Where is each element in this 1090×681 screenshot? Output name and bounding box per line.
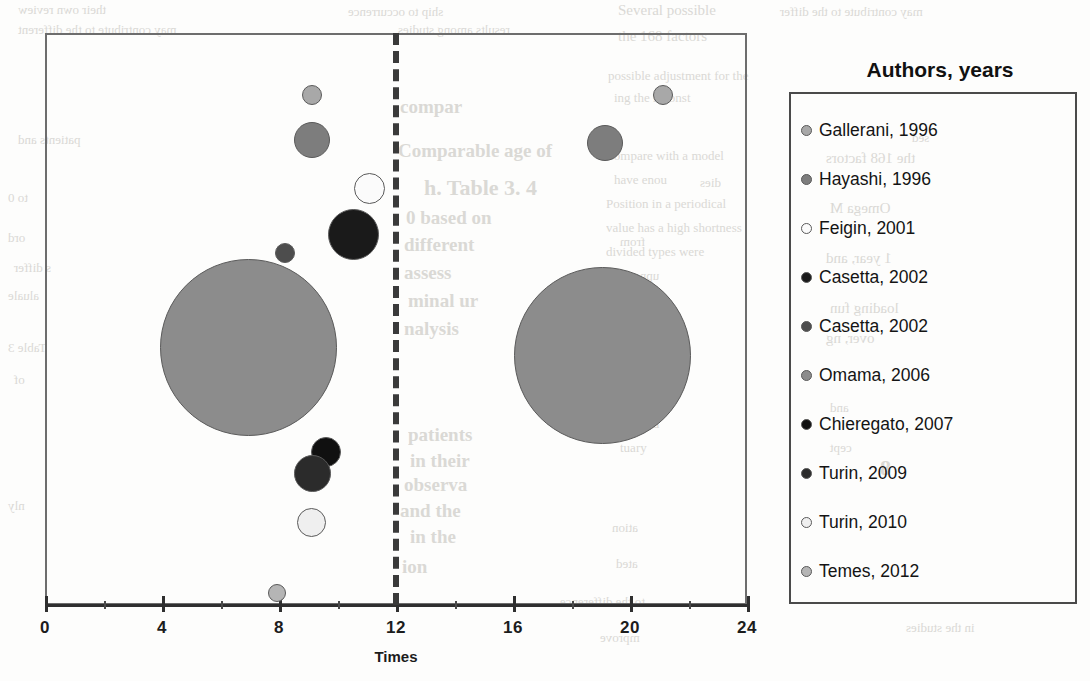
ghost-text: may contribute to the differ: [780, 4, 923, 20]
legend-swatch-icon: [801, 321, 812, 332]
x-axis-title: Times: [374, 648, 417, 665]
legend-item[interactable]: Turin, 2009: [801, 449, 1075, 498]
bubble-point: [514, 267, 691, 444]
threshold-reference-line: [393, 33, 399, 605]
bubble-point: [587, 125, 623, 161]
bubble-point: [354, 173, 385, 204]
bubble-point: [160, 259, 337, 436]
legend-swatch-icon: [801, 125, 812, 136]
legend-item-label: Casetta, 2002: [819, 267, 928, 288]
legend-swatch-icon: [801, 419, 812, 430]
legend-swatch-icon: [801, 370, 812, 381]
legend-item[interactable]: Turin, 2010: [801, 498, 1075, 547]
bubble-chart: 04812162024 Times: [0, 0, 780, 681]
legend-swatch-icon: [801, 272, 812, 283]
legend-item-label: Gallerani, 1996: [819, 120, 938, 141]
legend-item-label: Turin, 2010: [819, 512, 907, 533]
legend-item-label: Chieregato, 2007: [819, 414, 953, 435]
legend-item[interactable]: Gallerani, 1996: [801, 106, 1075, 155]
x-axis-tick-label: 0: [40, 618, 50, 638]
legend-item-label: Turin, 2009: [819, 463, 907, 484]
bubble-point: [275, 243, 295, 263]
legend-item[interactable]: Casetta, 2002: [801, 302, 1075, 351]
legend-item[interactable]: Omama, 2006: [801, 351, 1075, 400]
legend-swatch-icon: [801, 517, 812, 528]
x-axis-tick-label: 8: [274, 618, 284, 638]
legend-title: Authors, years: [866, 58, 1013, 82]
legend-item-label: Omama, 2006: [819, 365, 930, 386]
legend-item[interactable]: Feigin, 2001: [801, 204, 1075, 253]
bubble-point: [294, 122, 330, 158]
legend-item[interactable]: Temes, 2012: [801, 547, 1075, 596]
x-axis-tick-label: 16: [503, 618, 523, 638]
x-axis-major-tick: [630, 596, 633, 612]
x-axis-minor-tick: [104, 601, 106, 609]
bubble-point: [268, 584, 286, 602]
x-axis-tick-label: 24: [737, 618, 757, 638]
x-axis-major-tick: [513, 596, 516, 612]
legend-item-label: Casetta, 2002: [819, 316, 928, 337]
x-axis-major-tick: [162, 596, 165, 612]
legend-swatch-icon: [801, 468, 812, 479]
legend-item-label: Temes, 2012: [819, 561, 919, 582]
bubble-point: [297, 508, 326, 537]
x-axis-major-tick: [45, 596, 48, 612]
legend-item[interactable]: Casetta, 2002: [801, 253, 1075, 302]
bubble-point: [328, 209, 379, 260]
legend-box: Gallerani, 1996Hayashi, 1996Feigin, 2001…: [789, 92, 1077, 604]
legend-item[interactable]: Chieregato, 2007: [801, 400, 1075, 449]
legend-swatch-icon: [801, 174, 812, 185]
x-axis-tick-label: 12: [386, 618, 406, 638]
x-axis-minor-tick: [455, 601, 457, 609]
bubble-point: [294, 455, 331, 492]
x-axis-minor-tick: [338, 601, 340, 609]
legend-item-label: Feigin, 2001: [819, 218, 915, 239]
bubble-point: [302, 85, 322, 105]
x-axis-major-tick: [747, 596, 750, 612]
legend-item[interactable]: Hayashi, 1996: [801, 155, 1075, 204]
legend-swatch-icon: [801, 223, 812, 234]
legend-swatch-icon: [801, 566, 812, 577]
x-axis-tick-label: 4: [157, 618, 167, 638]
x-axis-minor-tick: [572, 601, 574, 609]
legend-item-label: Hayashi, 1996: [819, 169, 931, 190]
x-axis-minor-tick: [221, 601, 223, 609]
bubble-point: [653, 85, 673, 105]
ghost-text: in the studies: [906, 620, 975, 636]
x-axis-tick-label: 20: [620, 618, 640, 638]
x-axis-minor-tick: [689, 601, 691, 609]
